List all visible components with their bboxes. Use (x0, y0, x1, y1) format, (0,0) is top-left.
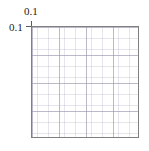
minor-gridlines (32, 27, 138, 137)
major-gridlines (32, 27, 138, 137)
x-axis-tick-mark (31, 21, 32, 26)
y-axis-tick-label: 0.1 (9, 22, 23, 33)
plot-area[interactable] (31, 26, 139, 138)
x-axis-tick-label: 0.1 (24, 6, 38, 17)
figure-canvas: 0.1 0.1 (0, 0, 149, 151)
y-axis-tick-mark (26, 26, 31, 27)
